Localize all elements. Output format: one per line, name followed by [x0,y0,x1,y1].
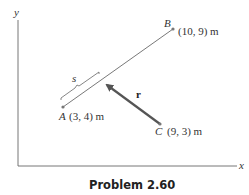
x-axis-label: x [238,159,244,171]
y-axis-label: y [13,6,19,18]
point-a-name: A [58,110,66,122]
vector-r-label: r [136,88,141,100]
point-a [61,105,64,108]
point-b [171,27,174,30]
point-a-coords: (3, 4) m [69,110,105,123]
problem-diagram: y x s r A (3, 4) m B (10, 9) m C (9, 3) … [0,0,249,195]
distance-label-s: s [72,72,76,84]
figure-caption: Problem 2.60 [89,178,175,192]
point-b-name: B [164,17,171,29]
point-c-coords: (9, 3) m [167,125,203,138]
point-c-name: C [155,125,163,137]
vector-r [107,85,160,124]
line-ab [63,29,173,107]
point-b-coords: (10, 9) m [178,25,219,38]
